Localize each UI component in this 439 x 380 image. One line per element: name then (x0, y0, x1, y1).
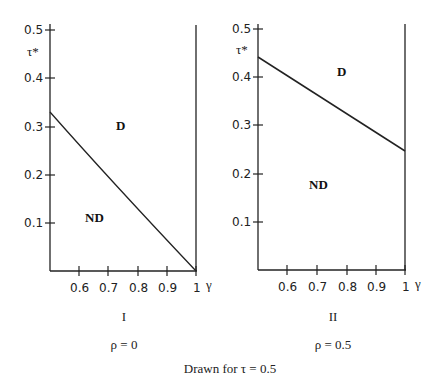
panel-1-numeral: I (104, 309, 144, 325)
y-tick-label: 0.1 (24, 216, 43, 230)
panel-2-numeral: II (313, 309, 353, 325)
region-label-d: D (116, 118, 125, 133)
panel-1: 0.5 0.4 0.3 0.2 0.1 τ* 0.6 0.7 0.8 0.9 1… (24, 23, 212, 295)
x-tick-label: 0.8 (129, 281, 148, 295)
x-tick-label: 0.7 (99, 281, 118, 295)
region-label-nd: ND (85, 210, 104, 225)
boundary-line (258, 57, 405, 151)
y-tick-label: 0.5 (24, 23, 43, 37)
y-tick-label: 0.3 (24, 120, 43, 134)
panel-2-rho: ρ = 0.5 (298, 337, 368, 353)
x-tick-label: 0.9 (158, 281, 177, 295)
y-tick-label: 0.2 (24, 168, 43, 182)
x-tick-label: 0.6 (70, 281, 89, 295)
figure: 0.5 0.4 0.3 0.2 0.1 τ* 0.6 0.7 0.8 0.9 1… (0, 0, 439, 380)
y-tick-label: 0.5 (232, 22, 251, 36)
x-tick-label: 1 (402, 280, 410, 294)
y-tick-label: 0.1 (232, 215, 251, 229)
x-axis-label: γ (414, 276, 421, 291)
x-axis-label: γ (205, 277, 212, 292)
x-tick-label: 1 (193, 281, 201, 295)
y-tick-label: 0.2 (232, 167, 251, 181)
y-axis-label: τ* (27, 44, 39, 59)
region-label-nd: ND (309, 177, 328, 192)
y-axis-label: τ* (236, 42, 248, 57)
footer-note: Drawn for τ = 0.5 (160, 361, 300, 377)
x-tick-label: 0.9 (367, 280, 386, 294)
y-tick-label: 0.3 (232, 118, 251, 132)
boundary-curve (50, 112, 196, 271)
y-tick-label: 0.4 (24, 71, 43, 85)
y-tick-label: 0.4 (232, 70, 251, 84)
panel-1-rho: ρ = 0 (94, 337, 154, 353)
x-tick-label: 0.7 (308, 280, 327, 294)
x-tick-label: 0.6 (278, 280, 297, 294)
region-label-d: D (337, 64, 346, 79)
panel-2: 0.5 0.4 0.3 0.2 0.1 τ* 0.6 0.7 0.8 0.9 1… (232, 22, 421, 294)
x-tick-label: 0.8 (338, 280, 357, 294)
